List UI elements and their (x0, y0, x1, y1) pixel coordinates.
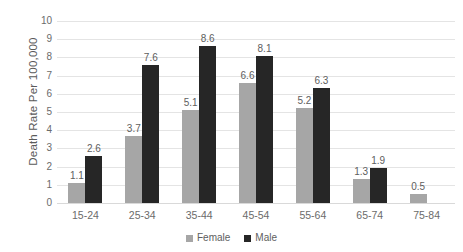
bar-pair: 6.68.1 (228, 21, 285, 203)
female-swatch-icon (186, 235, 193, 242)
y-tick-label: 3 (26, 143, 52, 153)
bar-value-label: 6.6 (241, 71, 255, 81)
x-tick-label: 45-54 (228, 207, 285, 223)
bar-slot: 1.3 (353, 21, 370, 203)
bar-male[interactable] (370, 168, 387, 203)
legend-item-female[interactable]: Female (186, 233, 230, 243)
y-tick-label: 7 (26, 71, 52, 81)
y-tick-label: 10 (26, 16, 52, 26)
male-swatch-icon (244, 235, 251, 242)
bar-slot: 3.7 (125, 21, 142, 203)
bar-pair: 1.31.9 (341, 21, 398, 203)
bar-slot (427, 21, 444, 203)
bar-female[interactable] (182, 110, 199, 203)
bar-value-label: 7.6 (144, 53, 158, 63)
bar-male[interactable] (85, 156, 102, 203)
bar-value-label: 8.1 (258, 44, 272, 54)
bar-slot: 6.3 (313, 21, 330, 203)
bar-group: 0.5 (398, 21, 455, 203)
y-tick-label: 5 (26, 107, 52, 117)
bar-slot: 1.9 (370, 21, 387, 203)
bar-slot: 0.5 (410, 21, 427, 203)
bar-slot: 2.6 (85, 21, 102, 203)
bar-value-label: 8.6 (201, 34, 215, 44)
bar-value-label: 1.1 (70, 171, 84, 181)
x-tick-label: 35-44 (171, 207, 228, 223)
bar-slot: 8.1 (256, 21, 273, 203)
bar-male[interactable] (313, 88, 330, 203)
bar-female[interactable] (353, 179, 370, 203)
bar-groups: 1.12.63.77.65.18.66.68.15.26.31.31.90.5 (57, 21, 455, 203)
y-tick-label: 1 (26, 180, 52, 190)
x-tick-label: 75-84 (398, 207, 455, 223)
bar-slot: 5.2 (296, 21, 313, 203)
bar-value-label: 1.3 (354, 167, 368, 177)
bar-value-label: 6.3 (314, 76, 328, 86)
chart-legend: Female Male (0, 231, 463, 245)
bar-pair: 0.5 (398, 21, 455, 203)
legend-item-male[interactable]: Male (244, 233, 277, 243)
bar-male[interactable] (199, 46, 216, 203)
bar-slot: 1.1 (68, 21, 85, 203)
x-axis-tick-labels: 15-2425-3435-4445-5455-6465-7475-84 (57, 207, 455, 223)
bar-group: 5.26.3 (284, 21, 341, 203)
bar-group: 6.68.1 (228, 21, 285, 203)
bar-group: 3.77.6 (114, 21, 171, 203)
bar-value-label: 0.5 (411, 182, 425, 192)
y-axis-tick-labels: 109876543210 (22, 21, 52, 203)
y-tick-label: 6 (26, 89, 52, 99)
y-tick-label: 0 (26, 198, 52, 208)
bar-group: 1.12.6 (57, 21, 114, 203)
bar-value-label: 2.6 (87, 144, 101, 154)
x-tick-label: 15-24 (57, 207, 114, 223)
bar-slot: 8.6 (199, 21, 216, 203)
bar-female[interactable] (68, 183, 85, 203)
legend-label-male: Male (255, 233, 277, 243)
bar-pair: 5.26.3 (284, 21, 341, 203)
bar-chart: Death Rate Per 100,000 109876543210 1.12… (0, 0, 463, 252)
y-tick-label: 4 (26, 125, 52, 135)
bar-value-label: 5.1 (184, 98, 198, 108)
bar-female[interactable] (410, 194, 427, 203)
y-tick-label: 2 (26, 162, 52, 172)
bar-pair: 1.12.6 (57, 21, 114, 203)
bar-pair: 5.18.6 (171, 21, 228, 203)
axis-baseline (57, 203, 455, 204)
bar-slot: 7.6 (142, 21, 159, 203)
bar-female[interactable] (239, 83, 256, 203)
bar-group: 5.18.6 (171, 21, 228, 203)
bar-female[interactable] (296, 108, 313, 203)
x-tick-label: 55-64 (284, 207, 341, 223)
bar-slot: 6.6 (239, 21, 256, 203)
bar-pair: 3.77.6 (114, 21, 171, 203)
bar-male[interactable] (142, 65, 159, 203)
bar-value-label: 3.7 (127, 124, 141, 134)
bar-value-label: 5.2 (297, 96, 311, 106)
legend-label-female: Female (197, 233, 230, 243)
bar-slot: 5.1 (182, 21, 199, 203)
bar-male[interactable] (256, 56, 273, 203)
bar-value-label: 1.9 (371, 156, 385, 166)
x-tick-label: 25-34 (114, 207, 171, 223)
bar-group: 1.31.9 (341, 21, 398, 203)
y-tick-label: 9 (26, 34, 52, 44)
bar-female[interactable] (125, 136, 142, 203)
y-tick-label: 8 (26, 52, 52, 62)
x-tick-label: 65-74 (341, 207, 398, 223)
